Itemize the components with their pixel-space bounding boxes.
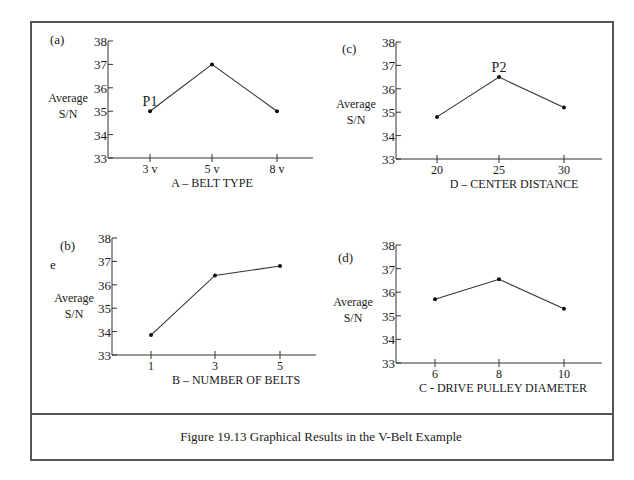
y-tick-label: 33 xyxy=(94,151,107,166)
chart-panel-c: 333435363738202530D – CENTER DISTANCEAve… xyxy=(336,35,602,191)
chart-panel-b: 333435363738135B – NUMBER OF BELTSAverag… xyxy=(50,231,316,387)
y-tick-label: 34 xyxy=(94,128,108,143)
panel-label: (c) xyxy=(342,41,356,56)
y-axis-label-line2: S/N xyxy=(347,113,366,127)
y-tick-label: 33 xyxy=(382,356,395,371)
panel-label: (d) xyxy=(338,250,353,265)
y-tick-label: 38 xyxy=(382,35,395,50)
x-tick-label: 10 xyxy=(558,367,570,381)
data-point xyxy=(213,273,217,277)
y-axis-label: Average xyxy=(54,291,94,305)
y-tick-label: 38 xyxy=(94,34,107,49)
chart-panel-a: 3334353637383 v5 v8 vA – BELT TYPEAverag… xyxy=(48,32,313,190)
x-tick-label: 8 xyxy=(496,367,502,381)
y-tick-label: 33 xyxy=(382,152,395,167)
x-tick-label: 8 v xyxy=(270,162,285,176)
data-point xyxy=(497,75,501,79)
y-tick-label: 37 xyxy=(98,254,112,269)
x-axis-label: D – CENTER DISTANCE xyxy=(450,177,579,191)
y-tick-label: 34 xyxy=(98,325,112,340)
data-point xyxy=(497,277,501,281)
y-tick-label: 35 xyxy=(382,105,395,120)
y-tick-label: 37 xyxy=(382,58,396,73)
y-tick-label: 38 xyxy=(98,231,111,246)
y-axis-label: Average xyxy=(336,97,376,111)
y-tick-label: 34 xyxy=(382,129,396,144)
panel-label: (a) xyxy=(50,32,64,47)
y-axis-label-line2: S/N xyxy=(65,307,84,321)
chart-panel-d: 3334353637386810C - DRIVE PULLEY DIAMETE… xyxy=(333,238,602,395)
y-axis-label: Average xyxy=(48,91,88,105)
data-point xyxy=(433,297,437,301)
data-line xyxy=(150,64,277,111)
data-point xyxy=(562,106,566,110)
data-point xyxy=(562,307,566,311)
x-tick-label: 30 xyxy=(558,163,570,177)
y-tick-label: 34 xyxy=(382,332,396,347)
data-point xyxy=(149,333,153,337)
data-point xyxy=(275,109,279,113)
y-tick-label: 37 xyxy=(94,57,108,72)
y-tick-label: 36 xyxy=(382,82,396,97)
x-tick-label: 5 xyxy=(277,359,283,373)
y-axis-label-line2: S/N xyxy=(59,107,78,121)
data-point xyxy=(210,62,214,66)
data-point xyxy=(148,109,152,113)
y-tick-label: 36 xyxy=(94,81,108,96)
annotation-label: e xyxy=(50,257,56,272)
x-axis-label: B – NUMBER OF BELTS xyxy=(172,373,300,387)
x-tick-label: 1 xyxy=(148,359,154,373)
y-tick-label: 35 xyxy=(98,301,111,316)
x-tick-label: 6 xyxy=(432,367,438,381)
data-line xyxy=(437,77,564,117)
y-tick-label: 35 xyxy=(382,309,395,324)
x-axis-label: C - DRIVE PULLEY DIAMETER xyxy=(419,381,587,395)
x-tick-label: 3 v xyxy=(143,162,158,176)
charts-canvas: 3334353637383 v5 v8 vA – BELT TYPEAverag… xyxy=(0,0,634,480)
data-point xyxy=(435,115,439,119)
y-tick-label: 37 xyxy=(382,262,396,277)
x-tick-label: 25 xyxy=(493,163,505,177)
x-axis-label: A – BELT TYPE xyxy=(171,176,252,190)
x-tick-label: 20 xyxy=(431,163,443,177)
x-tick-label: 5 v xyxy=(205,162,220,176)
y-axis-label: Average xyxy=(333,295,373,309)
x-tick-label: 3 xyxy=(212,359,218,373)
y-tick-label: 36 xyxy=(382,285,396,300)
y-axis-label-line2: S/N xyxy=(344,311,363,325)
y-tick-label: 38 xyxy=(382,238,395,253)
y-tick-label: 33 xyxy=(98,348,111,363)
y-tick-label: 35 xyxy=(94,104,107,119)
data-line xyxy=(435,279,564,309)
data-point xyxy=(278,264,282,268)
annotation-label: P1 xyxy=(143,94,158,109)
annotation-label: P2 xyxy=(492,60,507,75)
y-tick-label: 36 xyxy=(98,278,112,293)
panel-label: (b) xyxy=(60,238,75,253)
